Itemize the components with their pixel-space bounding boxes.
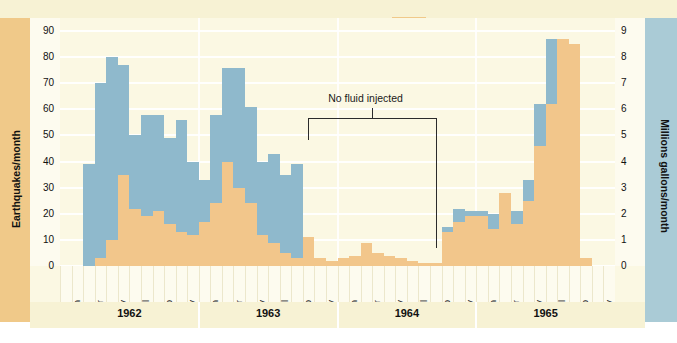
month-separator (384, 266, 385, 302)
month-separator (465, 266, 466, 302)
bar-earthquake-frequency (384, 256, 396, 266)
right-axis-tick-label: 9 (621, 25, 645, 36)
bar-earthquake-frequency (349, 256, 361, 266)
right-tick-column: 0123456789 (615, 18, 645, 266)
bar-earthquake-frequency (233, 188, 245, 266)
month-separator (511, 266, 512, 302)
bar-earthquake-frequency (245, 203, 257, 266)
left-axis-tick-label: 0 (30, 260, 54, 271)
month-separator (442, 266, 443, 302)
month-separator (407, 266, 408, 302)
right-axis-tick-label: 4 (621, 156, 645, 167)
month-separator (291, 266, 292, 302)
bar-contaminated-waste (83, 164, 95, 266)
year-label: 1963 (199, 307, 338, 319)
month-separator (395, 266, 396, 302)
month-axis: JanMarMayJulSepNovJanMarMayJulSepNovJanM… (60, 266, 615, 302)
bar-earthquake-frequency (372, 253, 384, 266)
bar-earthquake-frequency (187, 235, 199, 266)
bar-earthquake-frequency (499, 193, 511, 266)
annotation-bracket-left (308, 118, 309, 140)
month-separator (569, 266, 570, 302)
bar-earthquake-frequency (569, 44, 581, 266)
month-separator (83, 266, 84, 302)
bar-earthquake-frequency (523, 201, 535, 266)
right-axis-tick-label: 3 (621, 182, 645, 193)
month-separator (164, 266, 165, 302)
year-axis: 1962196319641965 (30, 302, 645, 328)
year-axis-separator (198, 302, 200, 328)
month-separator (488, 266, 489, 302)
bar-earthquake-frequency (546, 104, 558, 266)
chart-figure: Earthquake frequency Contaminated waste … (0, 0, 677, 343)
left-tick-column: 0102030405060708090 (30, 18, 60, 266)
right-axis-tick-label: 8 (621, 51, 645, 62)
left-axis-tick-label: 10 (30, 234, 54, 245)
right-axis-tick-label: 0 (621, 260, 645, 271)
bar-earthquake-frequency (141, 216, 153, 266)
left-axis-title: Earthquakes/month (10, 114, 22, 244)
left-axis-tick-label: 60 (30, 103, 54, 114)
month-separator (222, 266, 223, 302)
annotation-bracket-top (308, 118, 436, 119)
left-axis-band: Earthquakes/month (0, 18, 30, 322)
month-separator (245, 266, 246, 302)
month-separator (338, 266, 339, 302)
month-separator (592, 266, 593, 302)
bar-contaminated-waste (106, 57, 118, 266)
month-separator (141, 266, 142, 302)
month-separator (430, 266, 431, 302)
bar-earthquake-frequency (476, 216, 488, 266)
month-separator (268, 266, 269, 302)
month-separator (534, 266, 535, 302)
right-axis-title: Millions gallons/month (659, 102, 671, 250)
year-label: 1962 (60, 307, 199, 319)
bar-earthquake-frequency (442, 232, 454, 266)
month-separator (257, 266, 258, 302)
right-axis-tick-label: 6 (621, 103, 645, 114)
month-separator (280, 266, 281, 302)
month-separator (153, 266, 154, 302)
month-separator (303, 266, 304, 302)
bar-earthquake-frequency (580, 258, 592, 266)
month-separator (314, 266, 315, 302)
annotation-stem (372, 108, 373, 118)
annotation-bracket-right (436, 118, 437, 248)
bar-earthquake-frequency (361, 243, 373, 266)
bar-earthquake-frequency (129, 209, 141, 266)
bar-earthquake-frequency (465, 216, 477, 266)
bar-earthquake-frequency (511, 224, 523, 266)
bar-earthquake-frequency (199, 222, 211, 266)
month-separator (453, 266, 454, 302)
left-axis-tick-label: 90 (30, 25, 54, 36)
month-separator (349, 266, 350, 302)
bar-earthquake-frequency (395, 258, 407, 266)
bar-earthquake-frequency (257, 235, 269, 266)
bar-earthquake-frequency (338, 258, 350, 266)
bar-earthquake-frequency (534, 146, 546, 266)
bar-earthquake-frequency (153, 211, 165, 266)
bar-earthquake-frequency (95, 258, 107, 266)
month-separator (372, 266, 373, 302)
year-label: 1965 (476, 307, 615, 319)
month-separator (326, 266, 327, 302)
month-separator (176, 266, 177, 302)
bar-earthquake-frequency (210, 203, 222, 266)
month-separator (60, 266, 61, 302)
month-separator (233, 266, 234, 302)
bar-earthquake-frequency (488, 229, 500, 266)
month-separator (361, 266, 362, 302)
bar-earthquake-frequency (176, 232, 188, 266)
annotation-no-fluid-injected: No fluid injected (328, 92, 403, 104)
month-separator (499, 266, 500, 302)
bar-earthquake-frequency (453, 222, 465, 266)
left-axis-tick-label: 40 (30, 156, 54, 167)
bar-earthquake-frequency (222, 162, 234, 266)
month-separator (603, 266, 604, 302)
right-axis-tick-label: 1 (621, 234, 645, 245)
right-axis-tick-label: 2 (621, 208, 645, 219)
bar-earthquake-frequency (164, 224, 176, 266)
month-separator (72, 266, 73, 302)
bar-earthquake-frequency (118, 175, 130, 266)
bar-contaminated-waste (291, 164, 303, 266)
